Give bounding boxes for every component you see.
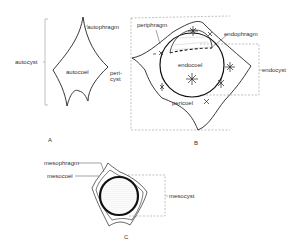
label-mesophragm: mesophragm [44,160,79,166]
panel-label-c: C [124,234,128,240]
panel-c-drawing [75,163,168,226]
panel-a-drawing [43,17,108,106]
label-endophragm: endophragm [224,31,258,37]
cyst-diagram [0,0,305,250]
label-pericoel: pericoel [172,100,193,106]
panel-label-b: B [194,140,198,146]
label-endocoel: endocoel [178,62,202,68]
label-endocyst: endocyst [262,67,286,73]
label-pericyst: peri- cyst [110,70,122,82]
label-mesocyst: mesocyst [169,193,194,199]
label-autophragm: autophragm [87,24,119,30]
label-autocoel: autocoel [66,69,89,75]
label-mesocoel: mesocoel [47,173,73,179]
panel-label-a: A [48,137,52,143]
label-autocyst: autocyst [15,59,37,65]
label-periphragm: periphragm [137,22,167,28]
